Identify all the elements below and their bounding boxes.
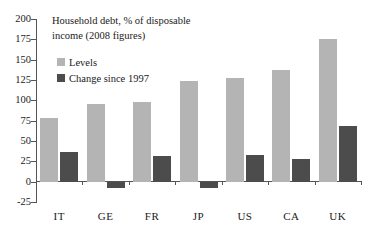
x-axis-label-it: IT [36, 210, 82, 222]
bar-ca-change [292, 159, 310, 182]
bar-uk-levels [319, 39, 337, 181]
bar-chart: Household debt, % of disposable income (… [0, 0, 369, 239]
y-tick-label: 0 [1, 177, 31, 187]
x-axis-tick [222, 181, 223, 185]
x-axis-label-uk: UK [315, 210, 361, 222]
y-tick-label: 125 [1, 75, 31, 85]
x-axis-tick [268, 181, 269, 185]
y-axis-labels: 2001751501251007550250-25 [0, 19, 31, 203]
bar-ge-change [107, 182, 125, 189]
x-axis-label-fr: FR [129, 210, 175, 222]
bar-ca-levels [272, 70, 290, 181]
x-axis-tick [82, 181, 83, 185]
x-axis-tick [361, 181, 362, 185]
y-tick-label: 150 [1, 55, 31, 65]
y-tick-label: 25 [1, 156, 31, 166]
plot-area [36, 19, 361, 202]
bar-fr-change [153, 156, 171, 181]
x-axis-label-us: US [222, 210, 268, 222]
y-tick-label: 75 [1, 116, 31, 126]
bar-it-change [60, 152, 78, 181]
bar-fr-levels [133, 102, 151, 182]
y-tick-label: 175 [1, 34, 31, 44]
bar-it-levels [40, 118, 58, 181]
x-axis-tick [175, 181, 176, 185]
bar-us-levels [226, 78, 244, 181]
y-tick-label: 100 [1, 95, 31, 105]
bar-jp-levels [180, 81, 198, 182]
bar-ge-levels [87, 104, 105, 182]
x-axis-label-ge: GE [83, 210, 129, 222]
bar-jp-change [200, 182, 218, 189]
bar-us-change [246, 155, 264, 182]
x-axis-label-ca: CA [268, 210, 314, 222]
x-axis-tick [129, 181, 130, 185]
y-tick-label: -25 [1, 197, 31, 207]
y-tick-label: 200 [1, 14, 31, 24]
x-axis-tick [315, 181, 316, 185]
bar-uk-change [339, 126, 357, 181]
x-axis-label-jp: JP [176, 210, 222, 222]
y-tick-label: 50 [1, 136, 31, 146]
